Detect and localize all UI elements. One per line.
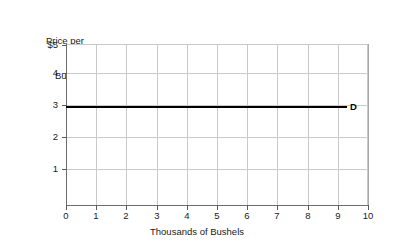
gridline-vertical-9: [338, 45, 339, 205]
y-axis-label-3: 3: [18, 100, 58, 110]
x-axis-label-8: 8: [293, 211, 323, 221]
y-axis-label-2: 2: [18, 132, 58, 142]
x-axis-label-6: 6: [232, 211, 262, 221]
x-axis-label-7: 7: [262, 211, 292, 221]
gridline-vertical-2: [126, 45, 127, 205]
x-axis-label-2: 2: [111, 211, 141, 221]
plot-area: [66, 45, 368, 205]
gridline-vertical-1: [96, 45, 97, 205]
x-axis-label-5: 5: [202, 211, 232, 221]
gridline-vertical-6: [247, 45, 248, 205]
gridline-horizontal-2: [66, 137, 368, 138]
demand-curve-line: [66, 106, 347, 108]
gridline-vertical-4: [187, 45, 188, 205]
demand-curve-chart: Price per Bushel $5 4 3 2 1: [0, 0, 394, 245]
gridline-vertical-8: [308, 45, 309, 205]
x-axis-label-4: 4: [172, 211, 202, 221]
y-axis-tick-4: [62, 73, 67, 74]
y-axis-tick-2: [62, 137, 67, 138]
x-axis-label-0: 0: [51, 211, 81, 221]
y-axis-label-1: 1: [18, 164, 58, 174]
demand-curve-label: D: [350, 102, 357, 112]
y-axis-label-4: 4: [18, 68, 58, 78]
y-axis-tick-1: [62, 169, 67, 170]
x-axis-label-3: 3: [142, 211, 172, 221]
x-axis-label-10: 10: [353, 211, 383, 221]
x-axis-title: Thousands of Bushels: [0, 226, 394, 237]
axis-top-spine: [66, 44, 369, 45]
gridline-vertical-5: [217, 45, 218, 205]
y-axis-label-5: $5: [18, 40, 58, 50]
gridline-horizontal-1: [66, 169, 368, 170]
x-axis-label-9: 9: [323, 211, 353, 221]
gridline-horizontal-4: [66, 73, 368, 74]
gridline-vertical-3: [157, 45, 158, 205]
gridline-vertical-7: [277, 45, 278, 205]
y-axis-tick-5: [62, 45, 67, 46]
y-axis-line: [66, 44, 67, 206]
axis-right-spine: [368, 44, 369, 206]
x-axis-label-1: 1: [81, 211, 111, 221]
